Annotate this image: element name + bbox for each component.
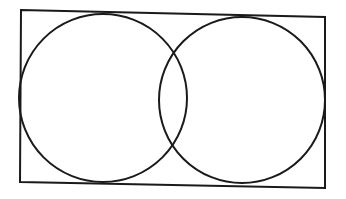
- left-set-circle: [19, 14, 187, 182]
- universal-set-rectangle: [20, 10, 325, 188]
- right-set-circle: [159, 17, 325, 183]
- venn-diagram: [0, 0, 346, 199]
